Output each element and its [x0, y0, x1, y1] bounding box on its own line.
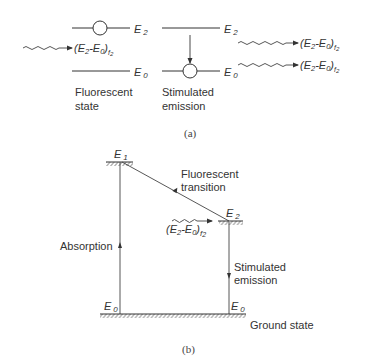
- fluorescent-transition-label-2: transition: [181, 181, 226, 193]
- down-arrow-icon: [227, 273, 231, 279]
- level-e2-label: E2: [226, 207, 240, 221]
- level-e0-left-label: E0: [104, 300, 118, 314]
- outgoing-photon-wave-icon: [238, 42, 286, 45]
- fluorescent-state-label-2: state: [75, 100, 99, 112]
- level-e1-label: E1: [114, 148, 128, 162]
- stimulated-emission-diagram: E2 E0 Stimulated emission (E2-E0)f2 (E2-…: [162, 23, 340, 112]
- caption-a: (a): [184, 127, 197, 140]
- outgoing-photon-wave-icon: [238, 64, 286, 67]
- panel-b: E1 Absorption Fluorescent transition E2 …: [60, 148, 314, 356]
- level-e0-label: E0: [224, 66, 238, 80]
- level-e0-right-label: E0: [231, 300, 245, 314]
- caption-b: (b): [182, 343, 195, 356]
- fluorescent-state-diagram: E2 E0 (E2-E0)f2 Fluorescent state: [23, 21, 148, 112]
- absorption-label: Absorption: [60, 240, 113, 252]
- level-e2-label: E2: [134, 23, 148, 37]
- outgoing-photon-label-2: (E2-E0)f2: [300, 59, 340, 74]
- ground-state-label: Ground state: [250, 319, 314, 331]
- level-e0-label: E0: [134, 66, 148, 80]
- energy-level-diagram: E2 E0 (E2-E0)f2 Fluorescent state E2 E0 …: [0, 0, 367, 364]
- stimulating-photon-label: (E2-E0)f2: [166, 223, 206, 238]
- incoming-photon-label: (E2-E0)f2: [74, 42, 114, 57]
- incoming-photon-wave-icon: [23, 47, 59, 50]
- up-arrow-icon: [118, 242, 122, 248]
- fluorescent-state-label: Fluorescent: [75, 86, 132, 98]
- stimulated-emission-label-2: emission: [162, 100, 205, 112]
- stimulated-emission-label-2: emission: [234, 274, 277, 286]
- electron-circle-icon: [93, 21, 107, 35]
- stimulated-emission-label: Stimulated: [162, 86, 214, 98]
- level-e2-label: E2: [224, 23, 238, 37]
- electron-circle-icon: [183, 64, 197, 78]
- panel-a: E2 E0 (E2-E0)f2 Fluorescent state E2 E0 …: [23, 21, 340, 140]
- stimulated-emission-label: Stimulated: [234, 261, 286, 273]
- fluorescent-transition-label: Fluorescent: [181, 168, 238, 180]
- outgoing-photon-label: (E2-E0)f2: [300, 37, 340, 52]
